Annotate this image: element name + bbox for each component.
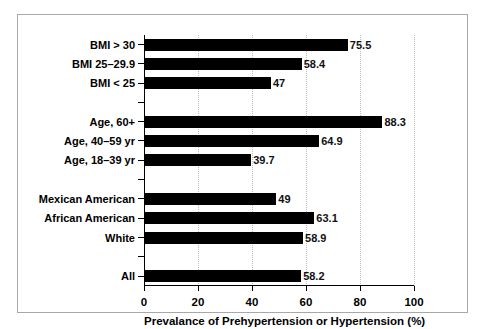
x-tick-mark-60 [306, 286, 307, 291]
bar-row: All58.2 [144, 267, 414, 286]
x-tick-mark-20 [198, 286, 199, 291]
bar-row: Mexican American49 [144, 189, 414, 208]
y-axis-tick [138, 102, 144, 103]
bar-row: BMI < 2547 [144, 74, 414, 93]
bar [144, 212, 314, 224]
category-label: Age, 18–39 yr [64, 152, 135, 168]
plot-area: BMI > 3075.5BMI 25–29.958.4BMI < 2547Age… [144, 35, 414, 286]
category-label: All [121, 268, 135, 284]
bar [144, 58, 302, 70]
bar [144, 232, 303, 244]
x-tick-mark-40 [252, 286, 253, 291]
figure-frame: BMI > 3075.5BMI 25–29.958.4BMI < 2547Age… [17, 14, 468, 313]
category-label: Age, 40–59 yr [64, 133, 135, 149]
bar [144, 154, 251, 166]
bar-value-label: 75.5 [348, 37, 371, 53]
x-tick-mark-80 [360, 286, 361, 291]
bar-row: Age, 40–59 yr64.9 [144, 132, 414, 151]
bar [144, 77, 271, 89]
category-label: Age, 60+ [89, 114, 135, 130]
bar-value-label: 58.2 [301, 268, 324, 284]
bar-value-label: 58.4 [302, 56, 325, 72]
bar [144, 116, 382, 128]
x-tick-label-80: 80 [354, 296, 367, 308]
bar-value-label: 47 [271, 75, 285, 91]
spacer-row [144, 170, 414, 189]
x-tick-label-20: 20 [192, 296, 205, 308]
spacer-row [144, 93, 414, 112]
category-label: African American [44, 210, 135, 226]
category-label: BMI > 30 [90, 37, 135, 53]
bar-value-label: 88.3 [382, 114, 405, 130]
bar-value-label: 63.1 [314, 210, 337, 226]
bar-row: Age, 18–39 yr39.7 [144, 151, 414, 170]
category-label: Mexican American [39, 191, 135, 207]
bar-row: Age, 60+88.3 [144, 112, 414, 131]
spacer-row [144, 247, 414, 266]
bar [144, 135, 319, 147]
bar-value-label: 39.7 [251, 152, 274, 168]
bar [144, 39, 348, 51]
bar-row: White58.9 [144, 228, 414, 247]
x-tick-label-0: 0 [141, 296, 147, 308]
gridline-100 [414, 35, 415, 286]
category-label: BMI 25–29.9 [72, 56, 135, 72]
x-tick-mark-100 [414, 286, 415, 291]
category-label: White [105, 230, 135, 246]
x-tick-label-100: 100 [404, 296, 423, 308]
y-axis-tick [138, 179, 144, 180]
y-axis-tick [138, 256, 144, 257]
bar [144, 193, 276, 205]
bar-row: BMI 25–29.958.4 [144, 54, 414, 73]
category-label: BMI < 25 [90, 75, 135, 91]
bar-row: African American63.1 [144, 209, 414, 228]
bar-value-label: 49 [276, 191, 290, 207]
x-axis-title: Prevalance of Prehypertension or Hyperte… [144, 315, 414, 327]
x-tick-mark-0 [144, 286, 145, 291]
x-tick-label-60: 60 [300, 296, 313, 308]
bar [144, 270, 301, 282]
bar-row: BMI > 3075.5 [144, 35, 414, 54]
bar-value-label: 58.9 [303, 230, 326, 246]
x-tick-label-40: 40 [246, 296, 259, 308]
bar-value-label: 64.9 [319, 133, 342, 149]
